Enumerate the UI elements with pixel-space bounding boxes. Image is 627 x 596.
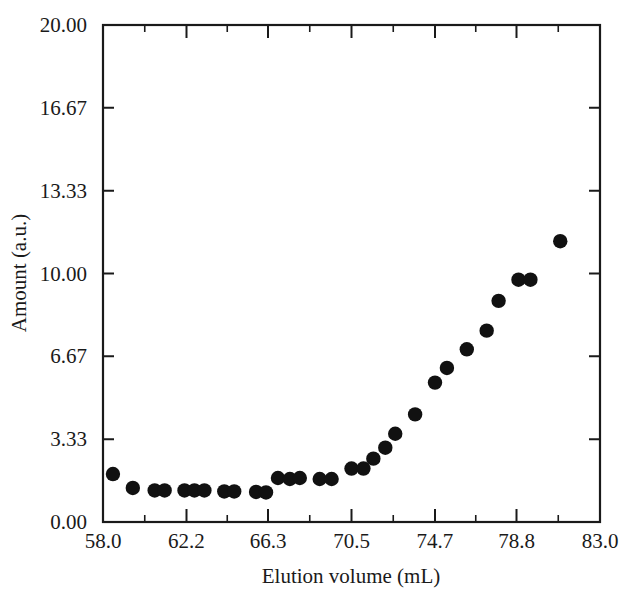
data-point	[553, 234, 567, 248]
data-point	[479, 323, 493, 337]
x-axis-tick-labels: 58.062.266.370.574.778.883.0	[85, 529, 619, 553]
x-tick-label: 78.8	[498, 529, 535, 553]
y-axis-title: Amount (a.u.)	[7, 214, 31, 332]
data-point	[293, 471, 307, 485]
data-point	[408, 407, 422, 421]
plot-frame	[103, 25, 600, 522]
data-point	[491, 294, 505, 308]
data-point	[428, 375, 442, 389]
data-point	[378, 441, 392, 455]
chart-figure: 0.003.336.6710.0013.3316.6720.00 58.062.…	[0, 0, 627, 596]
y-tick-label: 6.67	[50, 344, 87, 368]
x-tick-label: 62.2	[168, 529, 205, 553]
x-tick-label: 66.3	[250, 529, 287, 553]
data-point	[106, 467, 120, 481]
y-tick-label: 20.00	[40, 13, 87, 37]
y-tick-label: 10.00	[40, 262, 87, 286]
data-point	[157, 483, 171, 497]
y-axis-tick-labels: 0.003.336.6710.0013.3316.6720.00	[40, 13, 87, 534]
scatter-plot-canvas: 0.003.336.6710.0013.3316.6720.00 58.062.…	[0, 0, 627, 596]
y-tick-label: 13.33	[40, 179, 87, 203]
y-tick-label: 3.33	[50, 427, 87, 451]
data-point	[440, 361, 454, 375]
x-tick-label: 83.0	[582, 529, 619, 553]
data-point	[197, 483, 211, 497]
x-axis-title: Elution volume (mL)	[262, 564, 440, 588]
y-tick-label: 16.67	[40, 96, 87, 120]
data-point	[126, 481, 140, 495]
data-point	[259, 485, 273, 499]
y-tick-label: 0.00	[50, 510, 87, 534]
x-tick-label: 58.0	[85, 529, 122, 553]
x-tick-label: 74.7	[417, 529, 454, 553]
data-point	[324, 472, 338, 486]
y-axis-ticks	[103, 108, 600, 439]
data-point	[227, 484, 241, 498]
x-axis-ticks	[145, 25, 559, 522]
data-point	[460, 342, 474, 356]
data-point	[366, 451, 380, 465]
data-point-series	[106, 234, 568, 500]
data-point	[388, 427, 402, 441]
data-point	[523, 273, 537, 287]
x-tick-label: 70.5	[333, 529, 370, 553]
